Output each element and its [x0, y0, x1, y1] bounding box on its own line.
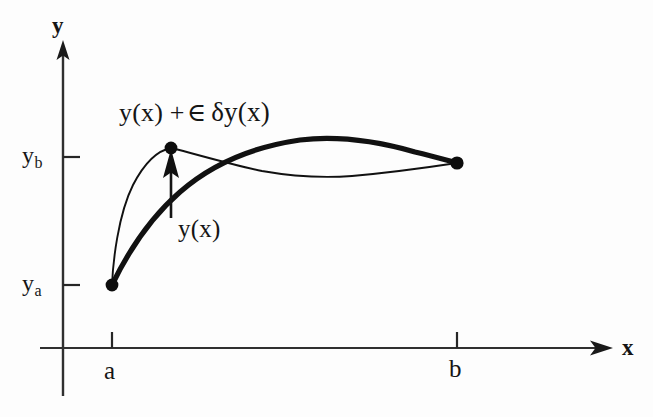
y-axis-label: y [52, 14, 64, 37]
x-axis-label: x [622, 336, 634, 359]
y-tick-label-ya-base: y [22, 270, 34, 296]
y-tick-label-ya-subscript: a [34, 282, 42, 299]
point-markers-group [106, 142, 464, 292]
perturbed-curve-path [112, 148, 457, 285]
base-curve-path [112, 138, 457, 285]
start-point-marker [106, 279, 119, 292]
y-tick-label-yb-subscript: b [34, 154, 43, 171]
figure-canvas [0, 0, 653, 417]
axes-group [40, 40, 613, 396]
base-curve-label: y(x) [178, 216, 220, 241]
x-tick-label-b: b [449, 356, 462, 381]
perturbed-curve-label: y(x) +∈δy(x) [119, 99, 270, 126]
y-tick-label-yb: yb [22, 143, 43, 171]
epsilon-symbol: ∈ [185, 98, 209, 127]
variational-calculus-figure: y x yb ya a b y(x) +∈δy(x) y(x) [0, 0, 653, 417]
tick-marks-group [63, 157, 457, 348]
end-point-marker [450, 156, 463, 169]
y-tick-label-ya: ya [22, 271, 42, 299]
delta-y-symbol: δy(x) [209, 97, 270, 127]
x-tick-label-a: a [104, 358, 115, 383]
curves-group [112, 138, 457, 285]
y-tick-label-yb-base: y [22, 142, 34, 168]
perturbation-top-point-marker [165, 142, 178, 155]
perturbed-curve-label-part1: y(x) + [119, 98, 185, 127]
